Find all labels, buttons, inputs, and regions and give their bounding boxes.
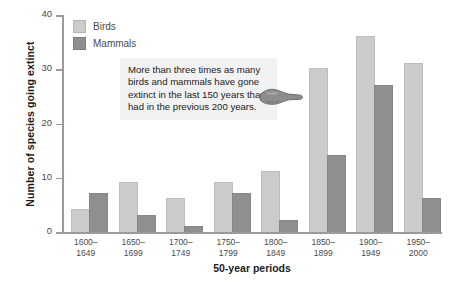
x-tick-label: 1650–1699 bbox=[109, 237, 157, 258]
x-axis-title: 50-year periods bbox=[62, 262, 442, 274]
x-tick-label: 1800–1849 bbox=[252, 237, 300, 258]
bar-group bbox=[305, 15, 348, 232]
bar-group bbox=[352, 15, 395, 232]
bar-birds bbox=[261, 171, 280, 232]
bar-birds bbox=[119, 182, 138, 232]
legend: Birds Mammals bbox=[73, 18, 136, 52]
legend-item-mammals: Mammals bbox=[73, 35, 136, 52]
legend-swatch-mammals bbox=[73, 37, 86, 50]
x-tick-label: 1900–1949 bbox=[347, 237, 395, 258]
y-tick-label-0: 0 bbox=[47, 225, 52, 236]
x-axis-line bbox=[62, 232, 442, 234]
y-tick-label-30: 30 bbox=[41, 62, 52, 73]
bar-birds bbox=[356, 36, 375, 232]
y-tick-label-20: 20 bbox=[41, 117, 52, 128]
extinction-bar-chart: Number of species going extinct 0 10 20 … bbox=[0, 0, 451, 297]
bar-mammals bbox=[137, 215, 156, 232]
y-tick-40: 40 bbox=[56, 15, 62, 17]
bar-birds bbox=[404, 63, 423, 232]
annotation-callout: More than three times as many birds and … bbox=[120, 58, 277, 120]
y-axis-line bbox=[62, 15, 64, 233]
y-tick-30: 30 bbox=[56, 69, 62, 71]
bar-group bbox=[257, 15, 300, 232]
y-tick-10: 10 bbox=[56, 178, 62, 180]
x-tick-label: 1950–2000 bbox=[394, 237, 442, 258]
x-tick-label: 1700–1749 bbox=[157, 237, 205, 258]
legend-label-birds: Birds bbox=[93, 21, 116, 32]
bar-mammals bbox=[89, 193, 108, 232]
bar-mammals bbox=[279, 220, 298, 232]
legend-label-mammals: Mammals bbox=[93, 38, 136, 49]
bar-birds bbox=[166, 198, 185, 232]
y-tick-label-10: 10 bbox=[41, 171, 52, 182]
bar-mammals bbox=[184, 226, 203, 232]
bar-birds bbox=[214, 182, 233, 232]
bar-mammals bbox=[374, 85, 393, 232]
bar-group bbox=[210, 15, 253, 232]
bar-birds bbox=[71, 209, 90, 232]
legend-item-birds: Birds bbox=[73, 18, 136, 35]
bar-mammals bbox=[232, 193, 251, 232]
bar-mammals bbox=[327, 155, 346, 232]
y-tick-label-40: 40 bbox=[41, 8, 52, 19]
bar-group bbox=[400, 15, 443, 232]
bar-birds bbox=[309, 68, 328, 232]
legend-swatch-birds bbox=[73, 20, 86, 33]
y-axis-title: Number of species going extinct bbox=[24, 9, 36, 239]
y-tick-20: 20 bbox=[56, 124, 62, 126]
y-tick-0: 0 bbox=[56, 232, 62, 234]
x-tick-label: 1850–1899 bbox=[299, 237, 347, 258]
bar-group bbox=[162, 15, 205, 232]
pointing-hand-icon bbox=[258, 82, 304, 112]
bar-mammals bbox=[422, 198, 441, 232]
x-tick-label: 1750–1799 bbox=[204, 237, 252, 258]
x-tick-label: 1600–1649 bbox=[62, 237, 110, 258]
